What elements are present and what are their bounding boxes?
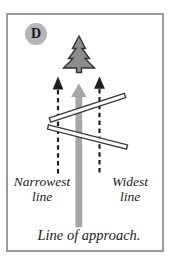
approach-arrow	[71, 84, 87, 228]
arrowhead-icon	[94, 77, 105, 89]
arrowhead-icon	[53, 77, 64, 90]
widest-line-label: Widest line	[90, 175, 170, 204]
fir-tree-icon	[64, 36, 95, 73]
crossing-line-upper	[49, 93, 125, 122]
line-of-approach-label: Line of approach.	[19, 228, 159, 243]
dashed-up-arrow-right	[94, 77, 105, 174]
crossing-line-lower	[48, 125, 128, 149]
narrowest-line-label: Narrowest line	[2, 175, 82, 204]
diagram-graphics	[0, 0, 170, 264]
arrowhead-icon	[71, 84, 87, 98]
diagram-panel: D Narrowest line Widest line Line of app…	[0, 0, 170, 264]
